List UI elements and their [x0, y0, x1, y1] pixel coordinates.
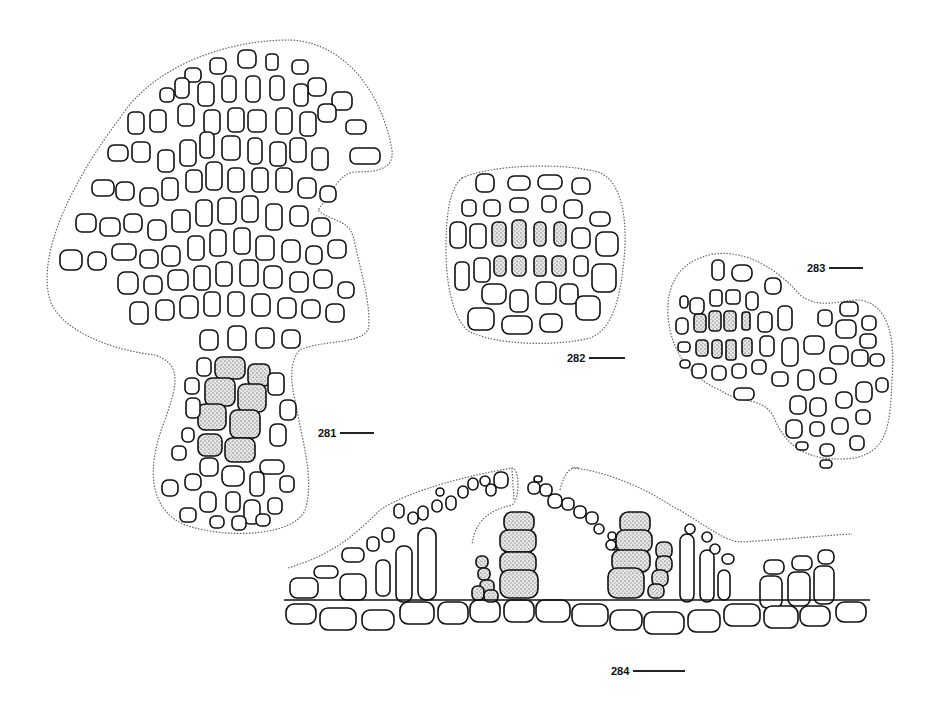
figure-284-label: 284 [611, 665, 685, 677]
scale-bar [829, 267, 863, 269]
figure-282-drawing [446, 166, 625, 343]
scale-bar [633, 670, 685, 672]
figure-281-drawing [47, 40, 392, 533]
figure-284-drawing [284, 468, 870, 634]
figure-281-label: 281 [318, 427, 374, 439]
figure-number: 281 [318, 427, 336, 439]
figure-283-label: 283 [807, 262, 863, 274]
figure-282-label: 282 [567, 352, 625, 364]
figure-plate [0, 0, 926, 715]
figure-number: 283 [807, 262, 825, 274]
figure-283-drawing [668, 253, 893, 468]
scale-bar [589, 357, 625, 359]
scale-bar [340, 432, 374, 434]
figure-number: 284 [611, 665, 629, 677]
figure-number: 282 [567, 352, 585, 364]
